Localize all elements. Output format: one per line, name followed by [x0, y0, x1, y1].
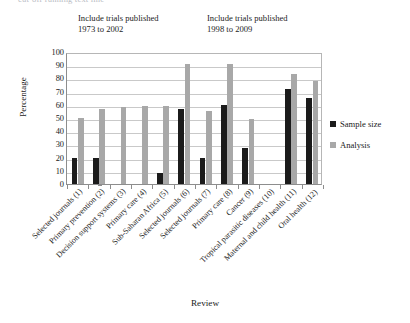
plot-area	[66, 53, 322, 185]
y-axis-tick-label: 10	[56, 168, 64, 176]
bar-analysis-8	[227, 64, 233, 184]
group-caption-left-line2: 1973 to 2002	[78, 24, 159, 35]
bar-sample-size-5	[157, 173, 163, 184]
bar-analysis-9	[249, 119, 255, 184]
y-axis-tick-label: 100	[51, 49, 64, 57]
bar-analysis-3	[121, 107, 127, 184]
legend-item-1: Sample size	[330, 119, 408, 129]
gridline	[67, 146, 321, 147]
cut-off-text: cut-off running text line	[18, 0, 104, 4]
y-axis-title: Percentage	[18, 52, 28, 142]
group-caption-right: Include trials published 1998 to 2009	[207, 13, 288, 34]
bar-sample-size-7	[200, 158, 206, 184]
bar-analysis-11	[291, 74, 297, 184]
group-caption-right-line2: 1998 to 2009	[207, 24, 288, 35]
bar-analysis-6	[185, 64, 191, 184]
bar-analysis-12	[313, 81, 319, 184]
bar-analysis-2	[99, 109, 105, 184]
y-axis-tick-label: 30	[56, 141, 64, 149]
gridline	[67, 160, 321, 161]
legend: Sample sizeAnalysis	[330, 119, 408, 161]
bar-sample-size-12	[306, 98, 312, 184]
y-axis-tick-label: 90	[56, 62, 64, 70]
legend-label: Analysis	[340, 140, 370, 150]
y-axis-tick-label: 20	[56, 155, 64, 163]
y-axis-tick-label: 80	[56, 75, 64, 83]
bar-sample-size-6	[178, 109, 184, 184]
gridline	[67, 173, 321, 174]
bar-sample-size-9	[242, 148, 248, 184]
group-caption-right-line1: Include trials published	[207, 13, 288, 24]
gridline	[67, 94, 321, 95]
legend-swatch-icon	[330, 121, 336, 127]
x-axis-title: Review	[0, 298, 410, 308]
x-axis-labels: Selected journals (1)Primary prevention …	[0, 186, 410, 282]
bar-analysis-1	[78, 118, 84, 184]
bar-sample-size-1	[72, 158, 78, 184]
bar-sample-size-8	[221, 105, 227, 184]
gridline	[67, 107, 321, 108]
y-axis: 1009080706050403020100	[36, 46, 64, 192]
y-axis-tick-label: 40	[56, 128, 64, 136]
bar-sample-size-11	[285, 89, 291, 184]
group-caption-left-line1: Include trials published	[78, 13, 159, 24]
gridline	[67, 120, 321, 121]
bar-analysis-4	[142, 106, 148, 184]
legend-swatch-icon	[330, 142, 336, 148]
bar-sample-size-2	[93, 158, 99, 184]
gridline	[67, 80, 321, 81]
cut-off-text-strip: cut-off running text line	[0, 0, 410, 8]
y-axis-tick-label: 50	[56, 115, 64, 123]
gridline	[67, 133, 321, 134]
y-axis-tick-label: 70	[56, 89, 64, 97]
bar-analysis-7	[206, 111, 212, 184]
legend-item-2: Analysis	[330, 140, 408, 150]
group-caption-left: Include trials published 1973 to 2002	[78, 13, 159, 34]
legend-label: Sample size	[340, 119, 381, 129]
y-axis-tick-label: 60	[56, 102, 64, 110]
bar-analysis-5	[163, 106, 169, 184]
gridline	[67, 67, 321, 68]
